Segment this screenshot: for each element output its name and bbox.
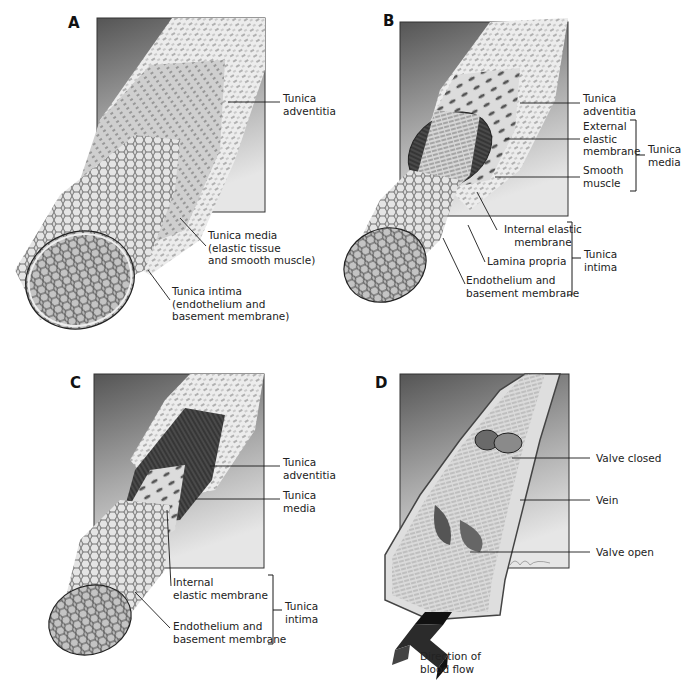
panel-d-illustration: [385, 374, 590, 680]
label-d-direction-of-blood-flow: Direction of blood flow: [420, 650, 481, 675]
label-b-smooth-muscle: Smooth muscle: [583, 164, 624, 189]
label-a-tunica-intima: Tunica intima (endothelium and basement …: [172, 285, 289, 323]
panel-d-valve-closed-right: [494, 433, 522, 453]
label-d-valve-open: Valve open: [596, 546, 654, 559]
label-b-tunica-adventitia: Tunica adventitia: [583, 92, 636, 117]
panel-letter-d: D: [375, 374, 387, 392]
label-d-valve-closed: Valve closed: [596, 452, 661, 465]
label-b-external-elastic-membrane: External elastic membrane: [583, 120, 640, 158]
label-a-tunica-adventitia: Tunica adventitia: [283, 92, 336, 117]
label-c-tunica-adventitia: Tunica adventitia: [283, 456, 336, 481]
panel-letter-a: A: [68, 14, 80, 32]
panel-letter-b: B: [383, 12, 394, 30]
label-b-endothelium: Endothelium and basement membrane: [466, 274, 579, 299]
label-b-internal-elastic-membrane: Internal elastic membrane: [504, 223, 582, 248]
label-c-endothelium: Endothelium and basement membrane: [173, 620, 286, 645]
label-c-tunica-media: Tunica media: [283, 489, 316, 514]
label-b-tunica-media-group: Tunica media: [648, 143, 681, 168]
label-b-tunica-intima-group: Tunica intima: [584, 248, 617, 273]
figure-canvas: [0, 0, 683, 687]
label-c-tunica-intima-group: Tunica intima: [285, 600, 318, 625]
label-d-vein: Vein: [596, 494, 618, 507]
label-a-tunica-media: Tunica media (elastic tissue and smooth …: [208, 229, 315, 267]
panel-letter-c: C: [70, 374, 81, 392]
label-c-internal-elastic-membrane: Internal elastic membrane: [173, 576, 268, 601]
label-b-lamina-propria: Lamina propria: [487, 255, 566, 268]
